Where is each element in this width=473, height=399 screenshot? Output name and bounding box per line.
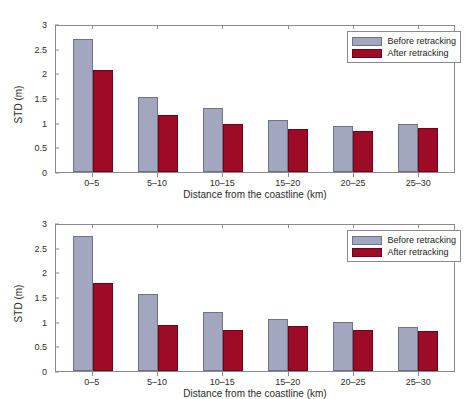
x-axis-tick-mark: [418, 372, 419, 376]
y-axis-tick-mark: [55, 25, 59, 26]
bar-after: [353, 131, 373, 172]
bar-after: [223, 330, 243, 371]
x-axis-tick-mark: [288, 372, 289, 376]
x-axis-tick-mark: [157, 372, 158, 376]
y-axis-tick-label: 3: [42, 21, 47, 30]
legend-swatch-before-icon: [352, 236, 382, 245]
x-axis-tick-mark: [222, 173, 223, 177]
legend-row-before-bottom: Before retracking: [352, 234, 456, 246]
bar-after: [418, 128, 438, 172]
x-axis-tick-mark: [222, 372, 223, 376]
legend-label-before-top: Before retracking: [387, 36, 456, 46]
chart-panel-top: STD (m) 00.511.522.53 0–55–1010–1515–202…: [0, 0, 473, 199]
bar-before: [138, 294, 158, 371]
y-axis-tick-label: 2.5: [34, 244, 47, 253]
x-axis-tick-mark: [157, 25, 158, 29]
y-axis-tick-mark: [55, 148, 59, 149]
y-axis-tick-label: 2: [42, 70, 47, 79]
legend-label-after-top: After retracking: [387, 48, 448, 58]
x-axis-tick-mark: [353, 25, 354, 29]
y-axis-tick-label: 0: [42, 169, 47, 178]
x-axis-tick-mark: [418, 224, 419, 228]
y-axis-ticks-bottom: 00.511.522.53: [0, 224, 53, 372]
y-axis-tick-label: 1.5: [34, 294, 47, 303]
y-axis-tick-mark: [55, 123, 59, 124]
y-axis-tick-mark: [55, 99, 59, 100]
y-axis-tick-label: 1.5: [34, 95, 47, 104]
y-axis-tick-label: 0.5: [34, 343, 47, 352]
legend-row-before-top: Before retracking: [352, 35, 456, 47]
legend-swatch-after-icon: [352, 248, 382, 257]
x-axis-tick-mark: [92, 25, 93, 29]
y-axis-tick-label: 2: [42, 269, 47, 278]
bar-before: [398, 327, 418, 371]
y-axis-tick-mark: [55, 372, 59, 373]
legend-bottom: Before retracking After retracking: [347, 230, 461, 262]
bar-group: [128, 225, 188, 371]
y-axis-tick-mark: [55, 74, 59, 75]
x-axis-tick-mark: [157, 224, 158, 228]
y-axis-tick-label: 1: [42, 318, 47, 327]
bar-before: [268, 120, 288, 172]
bar-before: [73, 39, 93, 172]
legend-swatch-after-icon: [352, 49, 382, 58]
bar-group: [63, 225, 123, 371]
x-axis-tick-mark: [92, 173, 93, 177]
y-axis-tick-label: 1: [42, 119, 47, 128]
x-axis-tick-mark: [157, 173, 158, 177]
y-axis-tick-mark: [55, 224, 59, 225]
bar-group: [258, 26, 318, 172]
bar-before: [138, 97, 158, 172]
bar-group: [128, 26, 188, 172]
x-axis-tick-mark: [222, 25, 223, 29]
x-axis-label-bottom: Distance from the coastline (km): [55, 388, 455, 399]
bar-group: [258, 225, 318, 371]
x-axis-tick-mark: [288, 224, 289, 228]
y-axis-tick-label: 2.5: [34, 45, 47, 54]
bar-after: [353, 330, 373, 371]
legend-label-before-bottom: Before retracking: [387, 235, 456, 245]
bar-after: [158, 115, 178, 172]
y-axis-tick-mark: [55, 49, 59, 50]
x-axis-tick-mark: [288, 173, 289, 177]
bar-after: [93, 70, 113, 172]
x-axis-tick-mark: [418, 173, 419, 177]
y-axis-tick-mark: [55, 298, 59, 299]
bar-before: [203, 108, 223, 172]
bar-after: [418, 331, 438, 371]
y-axis-ticks-top: 00.511.522.53: [0, 25, 53, 173]
bar-after: [288, 129, 308, 172]
y-axis-tick-label: 0.5: [34, 144, 47, 153]
x-axis-tick-mark: [353, 224, 354, 228]
bar-group: [193, 225, 253, 371]
bar-before: [73, 236, 93, 371]
y-axis-tick-mark: [55, 347, 59, 348]
bar-group: [193, 26, 253, 172]
bar-after: [223, 124, 243, 172]
legend-row-after-bottom: After retracking: [352, 246, 456, 258]
y-axis-tick-mark: [55, 248, 59, 249]
legend-label-after-bottom: After retracking: [387, 247, 448, 257]
bar-after: [288, 326, 308, 371]
bar-before: [203, 312, 223, 371]
x-axis-tick-mark: [353, 372, 354, 376]
x-axis-tick-mark: [418, 25, 419, 29]
x-axis-tick-mark: [92, 372, 93, 376]
legend-top: Before retracking After retracking: [347, 31, 461, 63]
bar-before: [333, 126, 353, 172]
legend-row-after-top: After retracking: [352, 47, 456, 59]
chart-panel-bottom: STD (m) 00.511.522.53 0–55–1010–1515–202…: [0, 199, 473, 398]
legend-swatch-before-icon: [352, 37, 382, 46]
x-axis-tick-mark: [222, 224, 223, 228]
y-axis-tick-label: 3: [42, 220, 47, 229]
x-axis-tick-mark: [92, 224, 93, 228]
bar-before: [333, 322, 353, 371]
bar-before: [268, 319, 288, 371]
bar-after: [158, 325, 178, 371]
bar-group: [63, 26, 123, 172]
x-axis-tick-mark: [353, 173, 354, 177]
y-axis-tick-mark: [55, 322, 59, 323]
y-axis-tick-mark: [55, 273, 59, 274]
x-axis-tick-mark: [288, 25, 289, 29]
